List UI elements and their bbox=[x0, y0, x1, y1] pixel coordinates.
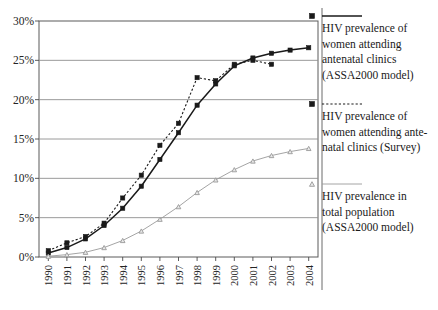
y-tick-label: 25% bbox=[13, 54, 35, 66]
data-point-marker bbox=[121, 196, 125, 200]
data-point-marker bbox=[269, 51, 273, 55]
y-tick-label: 15% bbox=[13, 133, 35, 145]
x-tick-label: 2002 bbox=[267, 265, 278, 286]
y-tick-label: 30% bbox=[13, 15, 35, 27]
x-tick-label: 1990 bbox=[43, 265, 54, 286]
data-point-marker bbox=[176, 131, 180, 135]
x-tick-label: 1992 bbox=[81, 265, 92, 286]
legend-entry-1: HIV prevalence ofwomen attendingantenata… bbox=[310, 14, 414, 82]
data-point-marker bbox=[158, 143, 162, 147]
legend-label-line: antenatal clinics bbox=[322, 53, 397, 65]
legend-label-line: natal clinics (Survey) bbox=[322, 141, 421, 154]
x-tick-label: 1991 bbox=[62, 265, 73, 286]
legend-label-line: total population bbox=[322, 206, 395, 219]
data-point-marker bbox=[46, 249, 50, 253]
x-tick-label: 1994 bbox=[118, 264, 129, 286]
x-tick-label: 1995 bbox=[136, 265, 147, 286]
data-point-marker bbox=[310, 14, 315, 19]
data-point-marker bbox=[251, 58, 255, 62]
data-point-marker bbox=[102, 221, 106, 225]
x-tick-label: 1996 bbox=[155, 265, 166, 286]
data-point-marker bbox=[139, 173, 143, 177]
legend-label-line: women attending ante- bbox=[322, 126, 428, 139]
x-tick-label: 1997 bbox=[174, 265, 185, 286]
y-tick-label: 10% bbox=[13, 172, 35, 184]
data-point-marker bbox=[83, 234, 87, 238]
x-axis-tick-labels: 1990199119921993199419951996199719981999… bbox=[43, 264, 314, 286]
data-point-marker bbox=[195, 76, 199, 80]
legend-label-line: HIV prevalence in bbox=[322, 190, 407, 203]
data-point-marker bbox=[307, 46, 311, 50]
x-tick-label: 1999 bbox=[211, 265, 222, 286]
x-tick-label: 1998 bbox=[192, 265, 203, 286]
data-point-marker bbox=[269, 62, 273, 66]
data-point-marker bbox=[176, 121, 180, 125]
data-point-marker bbox=[310, 102, 315, 107]
y-tick-label: 5% bbox=[19, 212, 35, 224]
x-tick-label: 1993 bbox=[99, 265, 110, 286]
data-point-marker bbox=[121, 206, 125, 210]
data-point-marker bbox=[65, 245, 69, 249]
data-point-marker bbox=[288, 48, 292, 52]
data-point-marker bbox=[195, 103, 199, 107]
data-point-marker bbox=[65, 241, 69, 245]
x-tick-label: 2004 bbox=[304, 264, 315, 286]
legend-label-line: (ASSA2000 model) bbox=[322, 69, 414, 82]
x-tick-label: 2000 bbox=[229, 265, 240, 286]
data-point-marker bbox=[139, 184, 143, 188]
hiv-prevalence-chart: 0%5%10%15%20%25%30% 19901991199219931994… bbox=[0, 0, 438, 310]
legend-label-line: (ASSA2000 model) bbox=[322, 221, 414, 234]
legend-label-line: HIV prevalence of bbox=[322, 22, 408, 35]
data-point-marker bbox=[232, 62, 236, 66]
legend-label-line: HIV prevalence of bbox=[322, 110, 408, 123]
y-tick-label: 20% bbox=[13, 94, 35, 106]
x-tick-label: 2001 bbox=[248, 265, 259, 286]
data-point-marker bbox=[158, 157, 162, 161]
y-tick-label: 0% bbox=[19, 251, 35, 263]
chart-canvas: 0%5%10%15%20%25%30% 19901991199219931994… bbox=[0, 0, 438, 310]
legend-label-line: women attending bbox=[322, 38, 402, 51]
x-tick-label: 2003 bbox=[285, 265, 296, 286]
data-point-marker bbox=[214, 79, 218, 83]
